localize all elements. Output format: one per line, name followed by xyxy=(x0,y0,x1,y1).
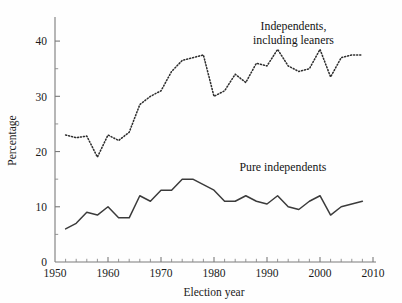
chart-figure: 0102030401950196019701980199020002010Ele… xyxy=(0,0,402,303)
series-line-independents xyxy=(66,49,363,157)
y-tick-label: 10 xyxy=(36,201,48,213)
series-line-pure-independents xyxy=(66,179,363,229)
labels-layer: 0102030401950196019701980199020002010Ele… xyxy=(6,19,385,299)
y-tick-label: 30 xyxy=(36,91,48,103)
x-tick-label: 1950 xyxy=(44,267,67,279)
chart-canvas: 0102030401950196019701980199020002010Ele… xyxy=(0,0,402,303)
annot-pure: Pure independents xyxy=(239,160,326,174)
x-tick-label: 1990 xyxy=(256,267,279,279)
axes-layer xyxy=(55,17,376,262)
series-layer xyxy=(66,49,363,228)
y-axis-title: Percentage xyxy=(6,115,19,165)
x-axis-title: Election year xyxy=(184,286,245,299)
annot-line-2: including leaners xyxy=(253,33,334,47)
x-tick-label: 2010 xyxy=(362,267,385,279)
x-tick-label: 1980 xyxy=(203,267,226,279)
x-tick-label: 1970 xyxy=(150,267,173,279)
y-tick-label: 20 xyxy=(36,146,48,158)
x-tick-label: 1960 xyxy=(97,267,120,279)
y-tick-label: 40 xyxy=(36,35,48,47)
annot-line-1: Independents, xyxy=(261,19,327,33)
annot-independents: Independents,including leaners xyxy=(253,19,334,47)
x-tick-label: 2000 xyxy=(309,267,332,279)
